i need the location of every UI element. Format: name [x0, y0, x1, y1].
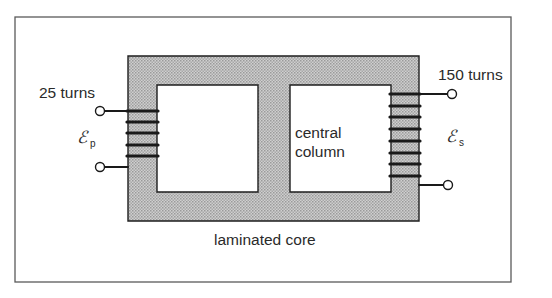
- secondary-terminal-bottom: [444, 181, 453, 190]
- secondary-turns-label: 150 turns: [438, 66, 503, 83]
- primary-terminal-bottom: [96, 163, 105, 172]
- central-column-label-line1: central: [295, 124, 342, 141]
- central-column-label-line2: column: [295, 143, 345, 160]
- laminated-core-label: laminated core: [214, 231, 316, 248]
- secondary-emf-symbol: ℰ: [446, 126, 458, 146]
- secondary-emf-subscript: s: [459, 137, 464, 148]
- primary-terminal-top: [96, 107, 105, 116]
- primary-emf-symbol: ℰ: [77, 127, 89, 147]
- laminated-core: [128, 56, 419, 221]
- primary-turns-label: 25 turns: [39, 84, 95, 101]
- transformer-diagram: 25 turns 150 turns central column lamina…: [0, 0, 552, 298]
- primary-emf-subscript: p: [90, 138, 96, 149]
- secondary-terminal-top: [448, 90, 457, 99]
